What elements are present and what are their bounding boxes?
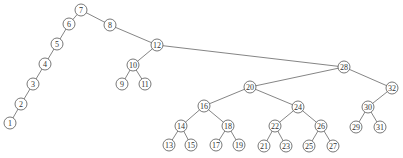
tree-node-32: 32 xyxy=(386,82,398,94)
node-label: 16 xyxy=(200,102,208,111)
node-label: 20 xyxy=(246,83,254,92)
tree-edges xyxy=(10,10,392,146)
node-label: 10 xyxy=(129,61,137,70)
tree-node-12: 12 xyxy=(151,39,163,51)
node-label: 1 xyxy=(8,119,12,128)
node-label: 27 xyxy=(329,142,337,151)
tree-edge-20-16 xyxy=(204,87,250,106)
node-label: 4 xyxy=(43,60,47,69)
tree-node-16: 16 xyxy=(198,100,210,112)
tree-node-14: 14 xyxy=(175,120,187,132)
tree-edge-28-20 xyxy=(250,67,344,87)
tree-node-23: 23 xyxy=(280,140,292,152)
node-label: 22 xyxy=(271,122,279,131)
node-label: 2 xyxy=(19,100,23,109)
node-label: 9 xyxy=(120,80,124,89)
node-label: 3 xyxy=(31,80,35,89)
tree-node-21: 21 xyxy=(258,140,270,152)
tree-node-5: 5 xyxy=(51,38,63,50)
tree-node-20: 20 xyxy=(244,81,256,93)
node-label: 11 xyxy=(141,80,149,89)
tree-node-25: 25 xyxy=(303,140,315,152)
tree-node-7: 7 xyxy=(75,4,87,16)
tree-edge-12-28 xyxy=(157,45,344,67)
tree-node-13: 13 xyxy=(163,139,175,151)
tree-node-11: 11 xyxy=(139,78,151,90)
tree-node-18: 18 xyxy=(222,120,234,132)
node-label: 25 xyxy=(305,142,313,151)
node-label: 19 xyxy=(235,141,243,150)
tree-node-26: 26 xyxy=(315,120,327,132)
tree-nodes: 7654321812109112820161418131517192422262… xyxy=(4,4,398,152)
tree-node-19: 19 xyxy=(233,139,245,151)
tree-node-9: 9 xyxy=(116,78,128,90)
tree-edge-28-32 xyxy=(344,67,392,88)
tree-node-8: 8 xyxy=(104,19,116,31)
tree-node-1: 1 xyxy=(4,117,16,129)
tree-node-24: 24 xyxy=(292,101,304,113)
tree-node-31: 31 xyxy=(374,121,386,133)
tree-node-27: 27 xyxy=(327,140,339,152)
node-label: 28 xyxy=(340,63,348,72)
node-label: 8 xyxy=(108,21,112,30)
node-label: 29 xyxy=(352,123,360,132)
node-label: 14 xyxy=(177,122,185,131)
tree-node-30: 30 xyxy=(362,101,374,113)
tree-node-29: 29 xyxy=(350,121,362,133)
tree-node-2: 2 xyxy=(15,98,27,110)
node-label: 17 xyxy=(212,141,220,150)
node-label: 7 xyxy=(79,6,83,15)
tree-node-17: 17 xyxy=(210,139,222,151)
tree-diagram: 7654321812109112820161418131517192422262… xyxy=(0,0,403,158)
tree-node-22: 22 xyxy=(269,120,281,132)
node-label: 32 xyxy=(388,84,396,93)
node-label: 18 xyxy=(224,122,232,131)
tree-node-6: 6 xyxy=(63,18,75,30)
node-label: 21 xyxy=(260,142,268,151)
node-label: 24 xyxy=(294,103,302,112)
node-label: 6 xyxy=(67,20,71,29)
tree-node-4: 4 xyxy=(39,58,51,70)
node-label: 23 xyxy=(282,142,290,151)
node-label: 30 xyxy=(364,103,372,112)
node-label: 12 xyxy=(153,41,161,50)
node-label: 26 xyxy=(317,122,325,131)
tree-node-3: 3 xyxy=(27,78,39,90)
tree-edge-20-24 xyxy=(250,87,298,107)
node-label: 31 xyxy=(376,123,384,132)
tree-node-10: 10 xyxy=(127,59,139,71)
node-label: 5 xyxy=(55,40,59,49)
tree-node-15: 15 xyxy=(185,139,197,151)
tree-node-28: 28 xyxy=(338,61,350,73)
node-label: 15 xyxy=(187,141,195,150)
tree-edge-8-12 xyxy=(110,25,157,45)
node-label: 13 xyxy=(165,141,173,150)
